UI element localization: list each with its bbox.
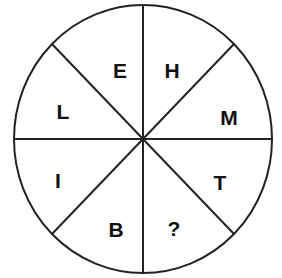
segment-left-lower-letter: I	[55, 169, 61, 192]
segment-bottom-left-letter: B	[108, 218, 123, 241]
segment-top-right-letter: H	[164, 59, 179, 82]
letter-wheel-diagram: E H M T ? B I L	[0, 0, 282, 278]
segment-right-lower-letter: T	[214, 171, 227, 194]
segment-top-left-letter: E	[113, 59, 127, 82]
segment-right-upper-letter: M	[220, 106, 238, 129]
segment-bottom-right-letter: ?	[168, 217, 181, 240]
segment-left-upper-letter: L	[57, 100, 70, 123]
